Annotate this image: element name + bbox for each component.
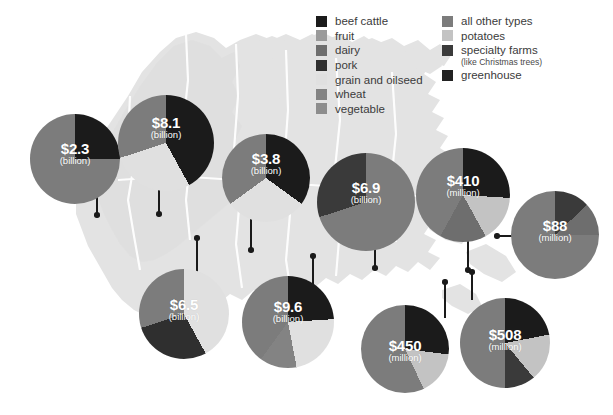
legend-label: pork — [335, 59, 357, 71]
pie-amount-unit: (million) — [460, 342, 550, 352]
pie-chart-alberta[interactable]: $8.1(billion) — [118, 95, 214, 191]
leader-line-dot — [94, 212, 100, 218]
pie-amount-value: $6.9 — [317, 180, 415, 195]
legend-swatch-greenhouse-icon — [442, 70, 453, 81]
pie-chart-british-columbia[interactable]: $2.3(billion) — [30, 114, 120, 204]
legend-item-fruit[interactable]: fruit — [316, 29, 442, 44]
leader-line-segment — [250, 216, 252, 250]
legend-swatch-potatoes-icon — [442, 30, 453, 41]
pie-chart-quebec[interactable]: $410(million) — [416, 148, 510, 242]
pie-amount-unit: (billion) — [118, 130, 214, 140]
legend: beef cattlefruitdairyporkgrain and oilse… — [316, 14, 608, 116]
leader-line-dot — [494, 233, 500, 239]
pie-amount-value: $8.1 — [118, 115, 214, 130]
pie-amount-value: $508 — [460, 327, 550, 342]
legend-label: all other types — [461, 15, 533, 27]
legend-swatch-beef-cattle-icon — [316, 16, 327, 27]
legend-item-grain-and-oilseed[interactable]: grain and oilseed — [316, 72, 442, 87]
legend-sublabel: (like Christmas trees) — [461, 57, 608, 67]
pie-label-atlantic-central: $9.6(billion) — [242, 299, 334, 324]
pie-amount-unit: (million) — [511, 233, 599, 243]
pie-amount-unit: (billion) — [242, 314, 334, 324]
pie-amount-value: $410 — [416, 173, 510, 188]
legend-swatch-specialty-farms-icon — [442, 45, 453, 56]
pie-chart-saskatchewan[interactable]: $3.8(billion) — [222, 134, 310, 222]
legend-label: grain and oilseed — [335, 74, 423, 86]
legend-item-all-other-types[interactable]: all other types — [442, 14, 608, 29]
pie-amount-unit: (million) — [416, 188, 510, 198]
legend-label: greenhouse — [461, 69, 522, 81]
pie-label-new-brunswick: $450(million) — [361, 338, 449, 363]
pie-chart-atlantic-central[interactable]: $9.6(billion) — [242, 276, 334, 368]
pie-amount-value: $3.8 — [222, 151, 310, 166]
pie-amount-unit: (billion) — [30, 156, 120, 166]
leader-line-dot — [442, 279, 448, 285]
pie-amount-value: $6.5 — [139, 297, 229, 312]
pie-amount-value: $450 — [361, 338, 449, 353]
pie-amount-unit: (million) — [361, 353, 449, 363]
leader-line-segment — [444, 282, 446, 318]
legend-column-right: all other typespotatoesspecialty farms(l… — [442, 14, 608, 116]
legend-item-pork[interactable]: pork — [316, 58, 442, 73]
legend-item-greenhouse[interactable]: greenhouse — [442, 68, 608, 83]
pie-amount-unit: (billion) — [222, 166, 310, 176]
legend-swatch-all-other-types-icon — [442, 16, 453, 27]
legend-label: wheat — [335, 88, 366, 100]
pie-amount-unit: (billion) — [139, 312, 229, 322]
infographic-root: $2.3(billion)$8.1(billion)$3.8(billion)$… — [0, 0, 613, 415]
pie-chart-ontario[interactable]: $6.9(billion) — [317, 153, 415, 251]
leader-line-dot — [310, 253, 316, 259]
legend-item-vegetable[interactable]: vegetable — [316, 101, 442, 116]
pie-label-saskatchewan: $3.8(billion) — [222, 151, 310, 176]
legend-item-beef-cattle[interactable]: beef cattle — [316, 14, 442, 29]
pie-amount-value: $88 — [511, 218, 599, 233]
pie-chart-nova-scotia[interactable]: $508(million) — [460, 298, 550, 388]
legend-swatch-vegetable-icon — [316, 103, 327, 114]
legend-label: fruit — [335, 30, 354, 42]
pie-chart-newfoundland[interactable]: $88(million) — [511, 191, 599, 279]
legend-label: specialty farms — [461, 44, 538, 56]
leader-line-segment — [471, 272, 473, 300]
pie-amount-value: $9.6 — [242, 299, 334, 314]
leader-line-dot — [194, 235, 200, 241]
pie-label-manitoba: $6.5(billion) — [139, 297, 229, 322]
leader-line-dot — [469, 269, 475, 275]
legend-label: beef cattle — [335, 15, 388, 27]
legend-label: dairy — [335, 44, 360, 56]
legend-item-potatoes[interactable]: potatoes — [442, 29, 608, 44]
legend-swatch-wheat-icon — [316, 89, 327, 100]
pie-label-british-columbia: $2.3(billion) — [30, 141, 120, 166]
legend-swatch-fruit-icon — [316, 30, 327, 41]
legend-column-left: beef cattlefruitdairyporkgrain and oilse… — [316, 14, 442, 116]
legend-swatch-dairy-icon — [316, 45, 327, 56]
pie-label-newfoundland: $88(million) — [511, 218, 599, 243]
legend-item-dairy[interactable]: dairy — [316, 43, 442, 58]
legend-item-wheat[interactable]: wheat — [316, 87, 442, 102]
legend-label: vegetable — [335, 103, 385, 115]
pie-chart-manitoba[interactable]: $6.5(billion) — [139, 269, 229, 359]
pie-amount-unit: (billion) — [317, 195, 415, 205]
legend-swatch-grain-and-oilseed-icon — [316, 74, 327, 85]
pie-label-ontario: $6.9(billion) — [317, 180, 415, 205]
pie-label-quebec: $410(million) — [416, 173, 510, 198]
leader-line-dot — [372, 265, 378, 271]
pie-label-alberta: $8.1(billion) — [118, 115, 214, 140]
legend-item-specialty-farms[interactable]: specialty farms — [442, 43, 608, 58]
leader-line-dot — [248, 247, 254, 253]
legend-label: potatoes — [461, 30, 505, 42]
pie-amount-value: $2.3 — [30, 141, 120, 156]
pie-chart-new-brunswick[interactable]: $450(million) — [361, 305, 449, 393]
leader-line-dot — [156, 211, 162, 217]
legend-swatch-pork-icon — [316, 60, 327, 71]
pie-label-nova-scotia: $508(million) — [460, 327, 550, 352]
